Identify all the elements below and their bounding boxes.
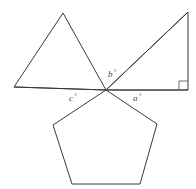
degree-symbol-c: °	[75, 93, 78, 99]
degree-symbol-b: °	[114, 69, 117, 75]
angle-label-c-group: c°	[69, 93, 78, 103]
degree-symbol-a: °	[139, 93, 142, 99]
equilateral-triangle	[14, 13, 106, 90]
ray-left	[14, 87, 106, 90]
regular-pentagon	[53, 90, 157, 184]
geometry-figure: b° c° a°	[0, 0, 196, 189]
right-angle-mark	[179, 81, 188, 90]
ray-hypotenuse	[106, 12, 188, 90]
angle-label-c: c	[69, 93, 73, 103]
geometry-canvas: b° c° a°	[0, 0, 196, 189]
angle-label-a: a	[133, 93, 138, 103]
angle-label-b-group: b°	[108, 69, 117, 79]
angle-label-a-group: a°	[133, 93, 142, 103]
angle-label-b: b	[108, 69, 113, 79]
